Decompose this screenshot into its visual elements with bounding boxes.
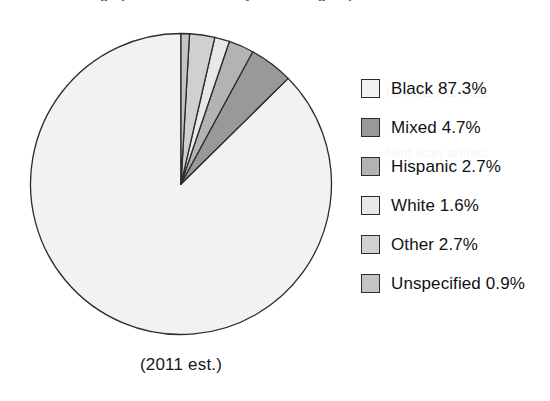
- legend-item-label: Hispanic 2.7%: [391, 157, 501, 176]
- legend-item-label: Other 2.7%: [391, 235, 478, 254]
- pie-slice-group: [30, 34, 331, 335]
- legend-swatch-hispanic: [361, 157, 380, 176]
- legend-swatch-mixed: [361, 118, 380, 137]
- pie-chart-svg: [29, 32, 333, 336]
- legend-item-label: White 1.6%: [391, 196, 479, 215]
- legend-item[interactable]: Hispanic 2.7%: [361, 155, 525, 177]
- legend-item-label: Mixed 4.7%: [391, 118, 481, 137]
- chart-legend: Black 87.3%Mixed 4.7%Hispanic 2.7%White …: [361, 77, 525, 294]
- clipped-page-title: Demographics of the country — ethnic gro…: [62, 0, 482, 1]
- legend-item-label: Black 87.3%: [391, 79, 487, 98]
- legend-item[interactable]: Mixed 4.7%: [361, 116, 525, 138]
- legend-item[interactable]: Other 2.7%: [361, 233, 525, 255]
- legend-swatch-white: [361, 196, 380, 215]
- legend-item[interactable]: Unspecified 0.9%: [361, 272, 525, 294]
- legend-swatch-unspecified: [361, 274, 380, 293]
- legend-swatch-black: [361, 79, 380, 98]
- chart-caption: (2011 est.): [0, 355, 362, 375]
- legend-item[interactable]: White 1.6%: [361, 194, 525, 216]
- chart-page: Demographics of the country — ethnic gro…: [0, 0, 550, 401]
- legend-item-label: Unspecified 0.9%: [391, 274, 525, 293]
- pie-chart: [29, 32, 333, 336]
- legend-item[interactable]: Black 87.3%: [361, 77, 525, 99]
- legend-swatch-other: [361, 235, 380, 254]
